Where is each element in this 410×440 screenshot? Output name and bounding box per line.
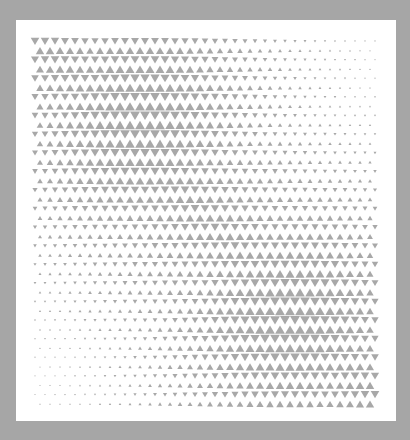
triangle-down xyxy=(90,112,99,120)
triangle-up xyxy=(148,384,152,387)
triangle-down xyxy=(112,244,118,249)
triangle-down xyxy=(31,94,38,100)
triangle-down xyxy=(161,168,170,175)
triangle-down xyxy=(320,298,329,306)
triangle-down xyxy=(252,95,258,100)
triangle-down xyxy=(303,59,306,62)
triangle-down xyxy=(343,188,348,192)
triangle-up xyxy=(275,288,285,296)
triangle-down xyxy=(182,336,188,341)
triangle-down xyxy=(212,57,219,63)
triangle-up xyxy=(336,401,344,407)
triangle-down xyxy=(251,373,259,380)
triangle-up xyxy=(176,252,183,258)
triangle-down xyxy=(173,393,178,397)
triangle-up xyxy=(369,142,372,144)
triangle-up xyxy=(266,382,274,389)
triangle-down xyxy=(142,243,148,248)
triangle-up xyxy=(236,382,244,388)
triangle-up xyxy=(89,328,92,330)
triangle-up xyxy=(187,308,193,313)
triangle-up xyxy=(156,47,164,54)
triangle-down xyxy=(130,111,140,119)
triangle-up xyxy=(167,252,174,258)
triangle-up xyxy=(115,102,125,110)
triangle-down xyxy=(103,319,106,322)
triangle-down xyxy=(232,76,238,81)
triangle-up xyxy=(146,47,154,54)
triangle-up xyxy=(115,121,125,129)
triangle-down xyxy=(73,282,77,285)
triangle-up xyxy=(147,271,153,276)
triangle-up xyxy=(256,270,265,277)
triangle-up xyxy=(98,272,102,276)
triangle-down xyxy=(354,115,356,117)
triangle-down xyxy=(231,392,238,398)
triangle-up xyxy=(257,160,263,165)
triangle-up xyxy=(66,84,74,91)
triangle-up xyxy=(296,252,304,259)
triangle-down xyxy=(252,58,257,62)
triangle-down xyxy=(364,96,366,98)
triangle-down xyxy=(71,75,80,82)
triangle-down xyxy=(191,243,199,249)
triangle-up xyxy=(147,290,152,295)
triangle-down xyxy=(81,75,89,82)
triangle-down xyxy=(301,243,309,250)
triangle-up xyxy=(97,215,103,220)
triangle-up xyxy=(128,328,132,331)
triangle-up xyxy=(137,234,143,239)
triangle-up xyxy=(206,326,213,332)
triangle-down xyxy=(332,225,339,231)
triangle-up xyxy=(157,309,162,313)
triangle-up xyxy=(227,141,234,147)
triangle-down xyxy=(344,78,346,80)
triangle-up xyxy=(99,403,101,405)
triangle-up xyxy=(328,179,333,183)
triangle-up xyxy=(196,196,204,203)
triangle-down xyxy=(231,354,239,361)
triangle-up xyxy=(49,310,51,312)
triangle-up xyxy=(95,102,104,110)
triangle-up xyxy=(298,86,301,89)
triangle-up xyxy=(359,50,361,52)
triangle-down xyxy=(153,374,157,378)
triangle-down xyxy=(152,262,158,267)
triangle-up xyxy=(308,68,311,71)
triangle-down xyxy=(91,187,99,193)
triangle-down xyxy=(191,187,199,194)
triangle-up xyxy=(197,364,203,369)
triangle-up xyxy=(96,66,104,73)
triangle-down xyxy=(211,75,218,81)
triangle-down xyxy=(293,151,298,155)
triangle-down xyxy=(242,150,248,155)
triangle-up xyxy=(66,140,74,147)
triangle-up xyxy=(267,141,272,145)
triangle-down xyxy=(313,96,316,99)
triangle-down xyxy=(52,150,59,156)
triangle-up xyxy=(305,270,314,278)
triangle-up xyxy=(369,106,371,108)
triangle-up xyxy=(207,364,214,370)
triangle-up xyxy=(177,271,184,277)
triangle-up xyxy=(247,122,253,127)
triangle-up xyxy=(87,234,92,239)
triangle-up xyxy=(187,383,193,388)
triangle-up xyxy=(156,215,163,221)
triangle-down xyxy=(282,188,288,193)
triangle-up xyxy=(296,401,304,407)
triangle-down xyxy=(162,299,168,304)
triangle-up xyxy=(336,382,344,389)
triangle-down xyxy=(201,224,209,231)
triangle-up xyxy=(217,383,224,389)
triangle-down xyxy=(211,336,219,342)
triangle-down xyxy=(111,206,118,212)
triangle-up xyxy=(346,252,353,258)
triangle-up xyxy=(227,48,233,53)
triangle-down xyxy=(191,131,200,138)
triangle-up xyxy=(125,140,135,148)
triangle-up xyxy=(77,216,83,221)
triangle-up xyxy=(306,252,314,259)
triangle-down xyxy=(64,338,66,340)
triangle-down xyxy=(181,93,190,101)
